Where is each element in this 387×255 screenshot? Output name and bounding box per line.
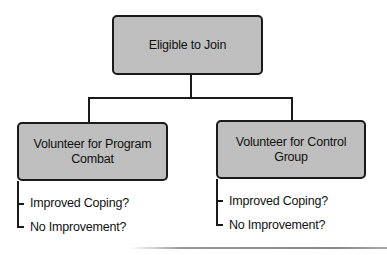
right-outcome-bracket-vertical xyxy=(216,179,218,225)
right-outcome-tick-1 xyxy=(216,200,223,202)
left-branch-connector xyxy=(88,97,90,123)
node-volunteer-control-group: Volunteer for Control Group xyxy=(216,120,366,179)
right-outcome-no-improvement: No Improvement? xyxy=(229,218,325,233)
root-node-label: Eligible to Join xyxy=(149,38,226,53)
left-outcome-no-improvement: No Improvement? xyxy=(30,220,126,235)
node-volunteer-program-combat: Volunteer for Program Combat xyxy=(17,122,168,181)
right-outcome-tick-2 xyxy=(216,224,223,226)
root-connector-vertical xyxy=(190,75,192,99)
left-outcome-tick-2 xyxy=(17,226,24,228)
page-bottom-rule xyxy=(130,247,387,249)
root-node-eligible-to-join: Eligible to Join xyxy=(112,15,263,75)
right-outcome-improved-coping: Improved Coping? xyxy=(229,194,328,209)
left-outcome-tick-1 xyxy=(17,203,24,205)
node-program-combat-label: Volunteer for Program Combat xyxy=(19,137,166,167)
right-branch-connector xyxy=(291,97,293,121)
branch-connector-horizontal xyxy=(88,97,293,99)
left-outcome-improved-coping: Improved Coping? xyxy=(30,196,129,211)
node-control-group-label: Volunteer for Control Group xyxy=(218,135,364,165)
